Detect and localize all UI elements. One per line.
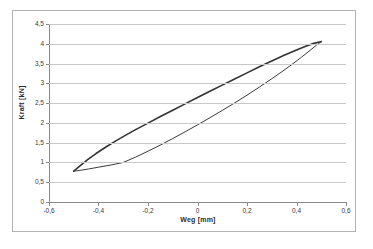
y-axis-tick	[46, 143, 49, 144]
x-axis-tick-label: 0,2	[242, 207, 251, 215]
y-axis-tick-label: 1	[40, 158, 44, 166]
x-axis-tick	[198, 203, 199, 206]
x-axis-tick	[98, 203, 99, 206]
y-axis-tick	[46, 24, 49, 25]
chart-frame: 00,511,522,533,544,5 Weg [mm] Kraft [kN]…	[12, 10, 356, 232]
y-axis-tick	[46, 83, 49, 84]
x-axis-tick	[297, 203, 298, 206]
y-axis-tick-label: 2,5	[35, 99, 44, 107]
y-axis-tick	[46, 182, 49, 183]
y-axis-tick	[46, 44, 49, 45]
y-axis-tick-label: 4	[40, 40, 44, 48]
x-axis-tick	[247, 203, 248, 206]
gridline-horizontal	[49, 64, 346, 65]
hysteresis-curve	[49, 24, 346, 202]
y-axis-tick	[46, 162, 49, 163]
x-axis-tick	[49, 203, 50, 206]
y-axis-tick-label: 0	[40, 198, 44, 206]
y-axis-tick	[46, 103, 49, 104]
gridline-horizontal	[49, 24, 346, 25]
chart-plot-wrapper: 00,511,522,533,544,5 Weg [mm] Kraft [kN]…	[13, 11, 357, 233]
x-axis-tick-label: -0,6	[43, 207, 54, 215]
gridline-horizontal	[49, 103, 346, 104]
x-axis-title: Weg [mm]	[49, 216, 347, 223]
gridline-horizontal	[49, 123, 346, 124]
y-axis-tick-label: 3,5	[35, 60, 44, 68]
x-axis-tick-label: 0,4	[292, 207, 301, 215]
gridline-horizontal	[49, 143, 346, 144]
x-axis-tick-label: 0,6	[341, 207, 350, 215]
y-axis-title: Kraft [kN]	[18, 73, 25, 133]
y-axis-tick-label: 1,5	[35, 139, 44, 147]
gridline-horizontal	[49, 83, 346, 84]
y-axis-tick-label: 3	[40, 79, 44, 87]
y-axis-tick-label: 4,5	[35, 20, 44, 28]
gridline-horizontal	[49, 44, 346, 45]
x-axis-tick	[148, 203, 149, 206]
gridline-horizontal	[49, 182, 346, 183]
series-path	[74, 42, 322, 172]
x-axis-tick-label: -0,2	[142, 207, 153, 215]
plot-area	[49, 24, 346, 202]
y-axis-tick-label: 0,5	[35, 178, 44, 186]
y-axis-tick	[46, 123, 49, 124]
x-axis-tick-label: 0	[196, 207, 200, 215]
y-axis-tick	[46, 64, 49, 65]
gridline-horizontal	[49, 162, 346, 163]
y-axis-tick-label: 2	[40, 119, 44, 127]
x-axis-tick	[346, 203, 347, 206]
x-axis-tick-label: -0,4	[93, 207, 104, 215]
series-path	[74, 42, 322, 172]
